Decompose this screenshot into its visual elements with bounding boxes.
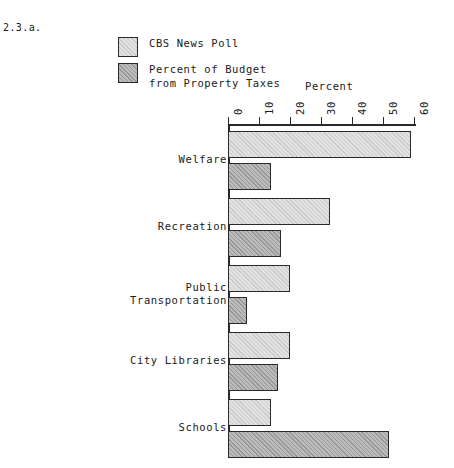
bar [228,332,290,359]
category-label: Recreation [158,220,227,233]
bar [228,265,290,292]
category-label: Welfare [179,153,227,166]
x-tick-label: 20 [294,101,306,115]
x-tick-mark [414,117,415,124]
bar [228,364,278,391]
x-tick-label: 50 [387,101,399,115]
x-tick-label: 40 [356,101,368,115]
x-tick-mark [290,117,291,124]
bar [228,163,271,190]
bar [228,431,389,458]
bar [228,131,411,158]
category-label: City Libraries [130,354,227,367]
x-tick-mark [228,117,229,124]
x-axis-title: Percent [305,80,353,92]
bar [228,230,281,257]
x-tick-label: 10 [263,101,275,115]
bar [228,297,247,324]
x-tick-mark [352,117,353,124]
x-tick-mark [259,117,260,124]
x-tick-label: 30 [325,101,337,115]
bar [228,198,330,225]
x-axis-line [228,124,416,126]
category-label: Public Transportation [130,281,227,307]
bar [228,399,271,426]
bar-chart: Percent 0102030405060 WelfareRecreationP… [0,0,454,468]
x-tick-label: 0 [232,108,244,115]
category-label: Schools [179,421,227,434]
x-tick-label: 60 [418,101,430,115]
x-tick-mark [383,117,384,124]
x-tick-mark [321,117,322,124]
